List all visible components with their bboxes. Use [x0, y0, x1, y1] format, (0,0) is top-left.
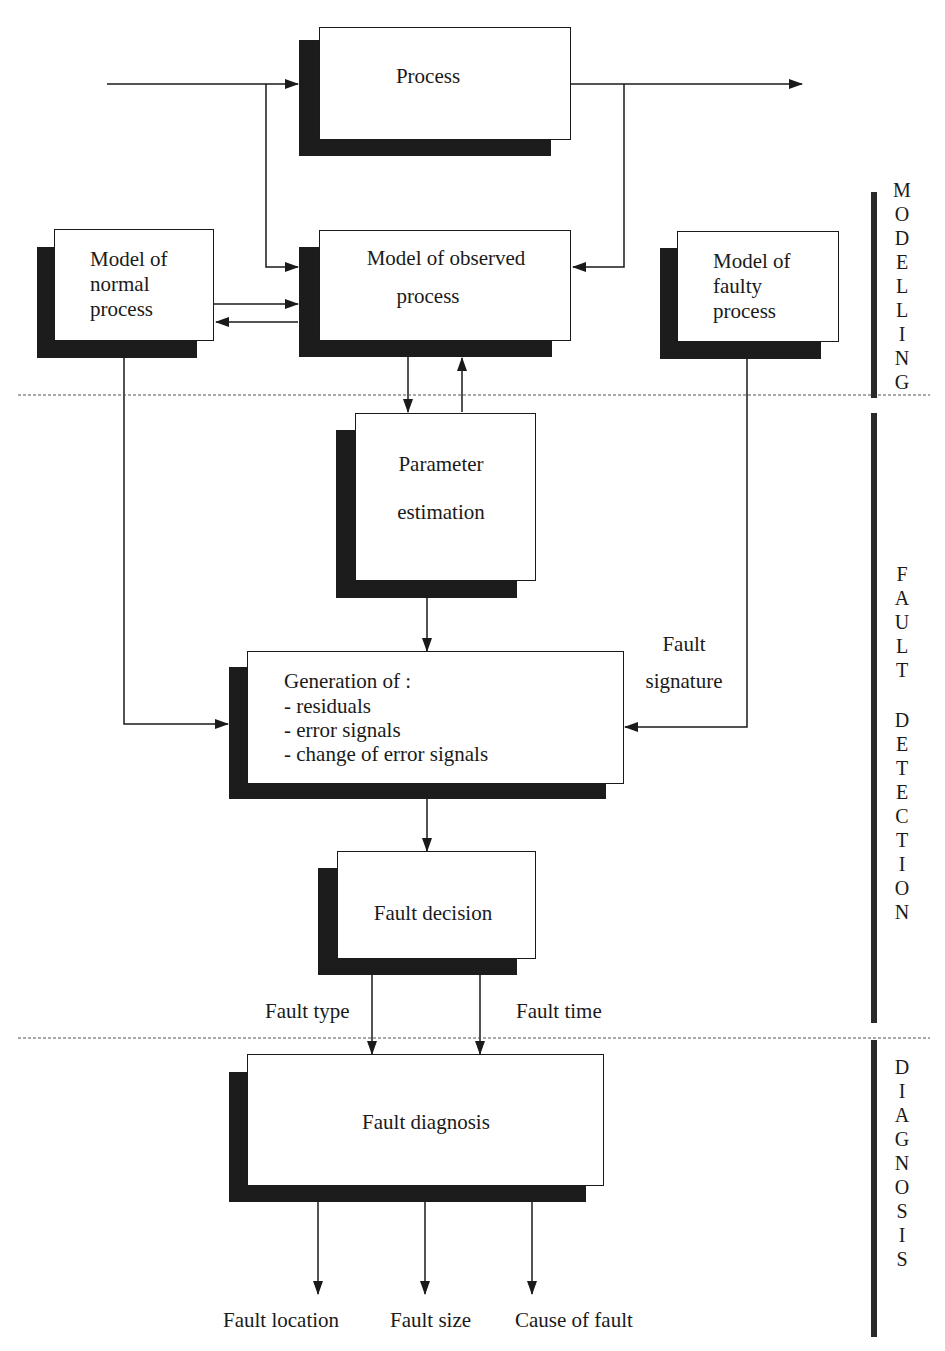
observed-model-line1: Model of observed [320, 246, 572, 271]
generation-item-residuals: - residuals [284, 694, 371, 719]
faulty-model-line3: process [713, 299, 776, 324]
normal-to-generation-arrow [124, 358, 228, 724]
output-to-observed-arrow [573, 84, 624, 267]
phase-label-modelling: MODELLING [887, 178, 917, 394]
observed-model-block[interactable]: Model of observed process [319, 230, 571, 341]
fault-type-label: Fault type [265, 999, 350, 1024]
phase-label-diagnosis: DIAGNOSIS [887, 1055, 917, 1271]
decision-label: Fault decision [338, 901, 528, 926]
observed-model-line2: process [320, 284, 536, 309]
output-fault-location: Fault location [223, 1308, 339, 1333]
fault-signature-label-line2: signature [632, 669, 736, 694]
diagnosis-block[interactable]: Fault diagnosis [247, 1054, 604, 1186]
generation-item-error-signals: - error signals [284, 718, 401, 743]
phase-label-detection: DETECTION [887, 708, 917, 924]
diagnosis-bar [871, 1040, 877, 1337]
faulty-model-line2: faulty [713, 274, 762, 299]
normal-model-block[interactable]: Model of normal process [54, 229, 214, 341]
param-est-line2: estimation [356, 500, 526, 525]
generation-block[interactable]: Generation of : - residuals - error sign… [247, 651, 624, 784]
faulty-model-block[interactable]: Model of faulty process [677, 231, 839, 342]
generation-item-change-error: - change of error signals [284, 742, 488, 767]
diagnosis-label: Fault diagnosis [248, 1110, 604, 1135]
process-label: Process [320, 64, 536, 89]
fault-time-label: Fault time [516, 999, 602, 1024]
faulty-model-line1: Model of [713, 249, 791, 274]
param-est-line1: Parameter [356, 452, 526, 477]
normal-model-line3: process [90, 297, 153, 322]
fault-diagnosis-diagram: Process Model of normal process Model of… [0, 0, 945, 1351]
modelling-bar [871, 192, 877, 398]
generation-title: Generation of : [284, 669, 411, 694]
phase-label-fault: FAULT [887, 562, 917, 682]
process-block[interactable]: Process [319, 27, 571, 140]
fault-signature-label-line1: Fault [632, 632, 736, 657]
output-fault-size: Fault size [390, 1308, 471, 1333]
output-cause-of-fault: Cause of fault [515, 1308, 633, 1333]
fault-detection-bar [871, 413, 877, 1023]
decision-block[interactable]: Fault decision [337, 851, 536, 959]
normal-model-line1: Model of [90, 247, 168, 272]
param-est-block[interactable]: Parameter estimation [355, 413, 536, 581]
normal-model-line2: normal [90, 272, 149, 297]
input-to-observed-arrow [266, 84, 298, 267]
